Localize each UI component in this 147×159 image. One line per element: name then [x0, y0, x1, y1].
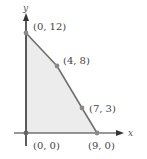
- y-axis-label: y: [22, 3, 29, 13]
- label-9-0: (9, 0): [88, 140, 115, 151]
- feasible-region-plot: x y (0, 12) (4, 8) (7, 3) (9, 0) (0, 0): [0, 0, 147, 159]
- x-axis-arrow-icon: [116, 130, 124, 136]
- vertex-4-8: [55, 64, 60, 69]
- vertex-9-0: [95, 131, 100, 136]
- label-0-12: (0, 12): [33, 21, 66, 32]
- x-axis-label: x: [128, 128, 133, 138]
- vertex-0-12: [24, 31, 29, 36]
- label-4-8: (4, 8): [63, 55, 90, 66]
- vertex-0-0: [24, 131, 29, 136]
- label-7-3: (7, 3): [89, 103, 116, 114]
- y-axis-arrow-icon: [23, 13, 29, 21]
- feasible-region: [26, 33, 97, 133]
- label-0-0: (0, 0): [33, 140, 60, 151]
- vertex-7-3: [80, 106, 85, 111]
